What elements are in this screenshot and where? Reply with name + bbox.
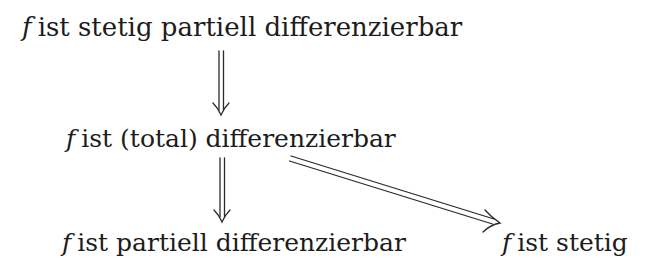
double-arrow-diagonal-icon — [290, 156, 501, 232]
double-arrow-down-icon — [213, 51, 229, 115]
double-arrow-down-icon — [214, 158, 230, 222]
implication-arrows — [0, 0, 655, 270]
